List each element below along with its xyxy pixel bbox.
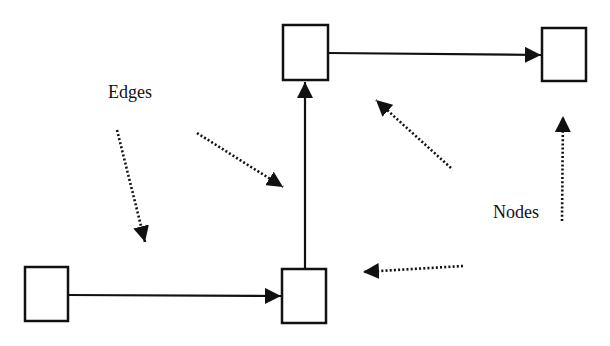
label-edges: Edges: [108, 82, 152, 102]
edge-top-middle-to-top-right: [328, 53, 541, 55]
node-bottom-left: [25, 267, 68, 321]
pointer-edges-to-vertical-edge: [197, 133, 283, 187]
pointer-nodes-to-bottom-middle: [363, 266, 463, 272]
node-top-middle: [283, 25, 328, 80]
pointer-nodes-to-top-middle: [376, 100, 451, 168]
pointer-nodes-to-top-right: [562, 116, 563, 221]
node-top-right: [542, 28, 586, 81]
edge-bottom-left-to-bottom-middle: [68, 295, 281, 296]
node-bottom-middle: [282, 269, 326, 323]
label-nodes: Nodes: [493, 202, 539, 222]
graph-diagram: Edges Nodes: [0, 0, 610, 346]
pointer-edges-to-bottom-edge: [117, 130, 145, 242]
